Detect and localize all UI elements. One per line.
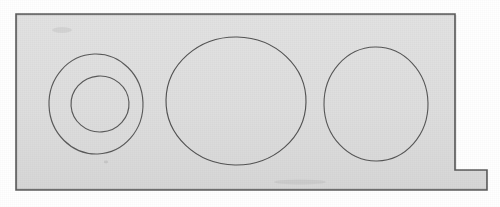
- sketch-canvas: [0, 0, 500, 207]
- drawing-surface: [0, 0, 500, 207]
